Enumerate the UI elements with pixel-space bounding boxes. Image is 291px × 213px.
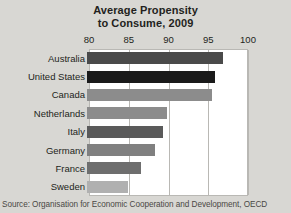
chart-title: Average Propensity to Consume, 2009	[0, 4, 291, 29]
bar-rows: AustraliaUnited StatesCanadaNetherlandsI…	[0, 49, 291, 196]
chart-title-line-2: to Consume, 2009	[0, 17, 291, 30]
chart-container: Average Propensity to Consume, 2009 8085…	[0, 0, 291, 213]
category-label-italy: Italy	[0, 126, 87, 137]
bar-row: Italy	[0, 123, 291, 141]
category-label-united-states: United States	[0, 71, 87, 82]
category-label-canada: Canada	[0, 89, 87, 100]
bar-canada	[87, 89, 212, 101]
x-tick-label-90: 90	[163, 34, 174, 45]
bar-track	[87, 49, 246, 67]
x-tick-label-85: 85	[123, 34, 134, 45]
source-note: Source: Organisation for Economic Cooper…	[2, 200, 291, 209]
bar-sweden	[87, 181, 128, 193]
bar-france	[87, 162, 141, 174]
chart-title-line-1: Average Propensity	[0, 4, 291, 17]
bar-track	[87, 159, 246, 177]
bar-track	[87, 67, 246, 85]
bar-row: Sweden	[0, 178, 291, 196]
bar-united-states	[87, 71, 215, 83]
bar-track	[87, 123, 246, 141]
x-tick-label-80: 80	[84, 34, 95, 45]
bar-row: Canada	[0, 86, 291, 104]
bar-row: Netherlands	[0, 104, 291, 122]
bar-track	[87, 178, 246, 196]
bar-row: Australia	[0, 49, 291, 67]
bar-germany	[87, 144, 155, 156]
category-label-netherlands: Netherlands	[0, 108, 87, 119]
bar-italy	[87, 126, 163, 138]
category-label-france: France	[0, 163, 87, 174]
x-axis-tick-labels: 80859095100	[0, 34, 291, 47]
category-label-sweden: Sweden	[0, 181, 87, 192]
x-tick-label-100: 100	[240, 34, 256, 45]
bar-track	[87, 86, 246, 104]
bar-row: United States	[0, 67, 291, 85]
x-tick-label-95: 95	[203, 34, 214, 45]
category-label-germany: Germany	[0, 145, 87, 156]
bar-track	[87, 104, 246, 122]
bar-track	[87, 141, 246, 159]
bar-row: France	[0, 159, 291, 177]
bar-australia	[87, 52, 223, 64]
bar-netherlands	[87, 107, 167, 119]
category-label-australia: Australia	[0, 53, 87, 64]
bar-row: Germany	[0, 141, 291, 159]
